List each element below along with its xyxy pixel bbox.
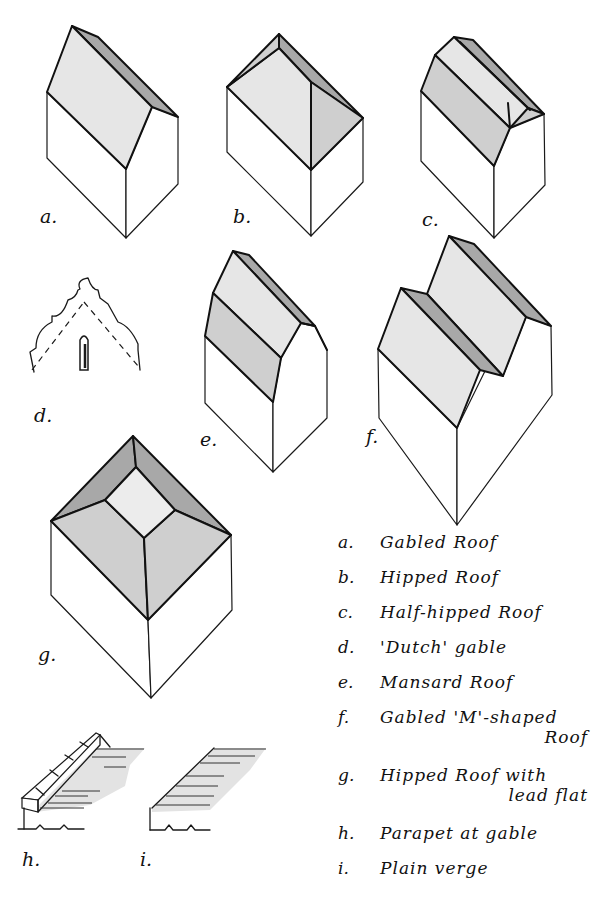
legend-key: c.: [338, 602, 376, 622]
legend-text: Half-hipped Roof: [380, 602, 542, 622]
legend-text: Mansard Roof: [380, 672, 513, 692]
legend-item-c: c. Half-hipped Roof: [338, 602, 588, 637]
legend-key: b.: [338, 567, 376, 587]
legend-item-i: i. Plain verge: [338, 858, 588, 893]
legend-item-f: f. Gabled 'M'-shaped Roof: [338, 707, 588, 765]
drawing-h-parapet-at-gable: [18, 733, 145, 829]
label-f: f.: [366, 425, 378, 447]
label-c: c.: [422, 208, 439, 230]
legend-item-b: b. Hipped Roof: [338, 567, 588, 602]
label-a: a.: [40, 205, 57, 227]
label-h: h.: [22, 848, 40, 870]
legend-key: h.: [338, 823, 376, 843]
legend-item-e: e. Mansard Roof: [338, 672, 588, 707]
legend-key: f.: [338, 707, 376, 727]
legend-key: i.: [338, 858, 376, 878]
legend-text: Parapet at gable: [380, 823, 538, 843]
label-e: e.: [200, 428, 217, 450]
legend-text: Hipped Roof with: [380, 765, 547, 785]
legend-key: e.: [338, 672, 376, 692]
drawing-a-gabled-roof: [47, 26, 178, 238]
label-g: g.: [38, 643, 56, 665]
legend-text: 'Dutch' gable: [380, 637, 507, 657]
legend-key: d.: [338, 637, 376, 657]
drawing-e-mansard-roof: [205, 251, 327, 472]
legend-text: Hipped Roof: [380, 567, 499, 587]
legend: a. Gabled Roof b. Hipped Roof c. Half-hi…: [338, 532, 588, 893]
drawing-c-half-hipped-roof: [421, 37, 545, 238]
legend-item-d: d. 'Dutch' gable: [338, 637, 588, 672]
drawing-d-dutch-gable: [30, 278, 140, 372]
legend-item-h: h. Parapet at gable: [338, 823, 588, 858]
legend-text: Gabled 'M'-shaped: [380, 707, 558, 727]
legend-text: Plain verge: [380, 858, 489, 878]
legend-text-cont: lead flat: [508, 785, 588, 805]
legend-item-g: g. Hipped Roof with lead flat: [338, 765, 588, 823]
drawing-i-plain-verge: [150, 748, 266, 830]
legend-text-cont: Roof: [544, 727, 588, 747]
label-d: d.: [34, 404, 52, 426]
drawing-f-m-shaped-roof: [378, 236, 552, 525]
drawing-g-hipped-lead-flat: [51, 436, 232, 698]
label-b: b.: [233, 205, 251, 227]
legend-key: g.: [338, 765, 376, 785]
legend-text: Gabled Roof: [380, 532, 497, 552]
legend-key: a.: [338, 532, 376, 552]
label-i: i.: [140, 848, 152, 870]
legend-item-a: a. Gabled Roof: [338, 532, 588, 567]
